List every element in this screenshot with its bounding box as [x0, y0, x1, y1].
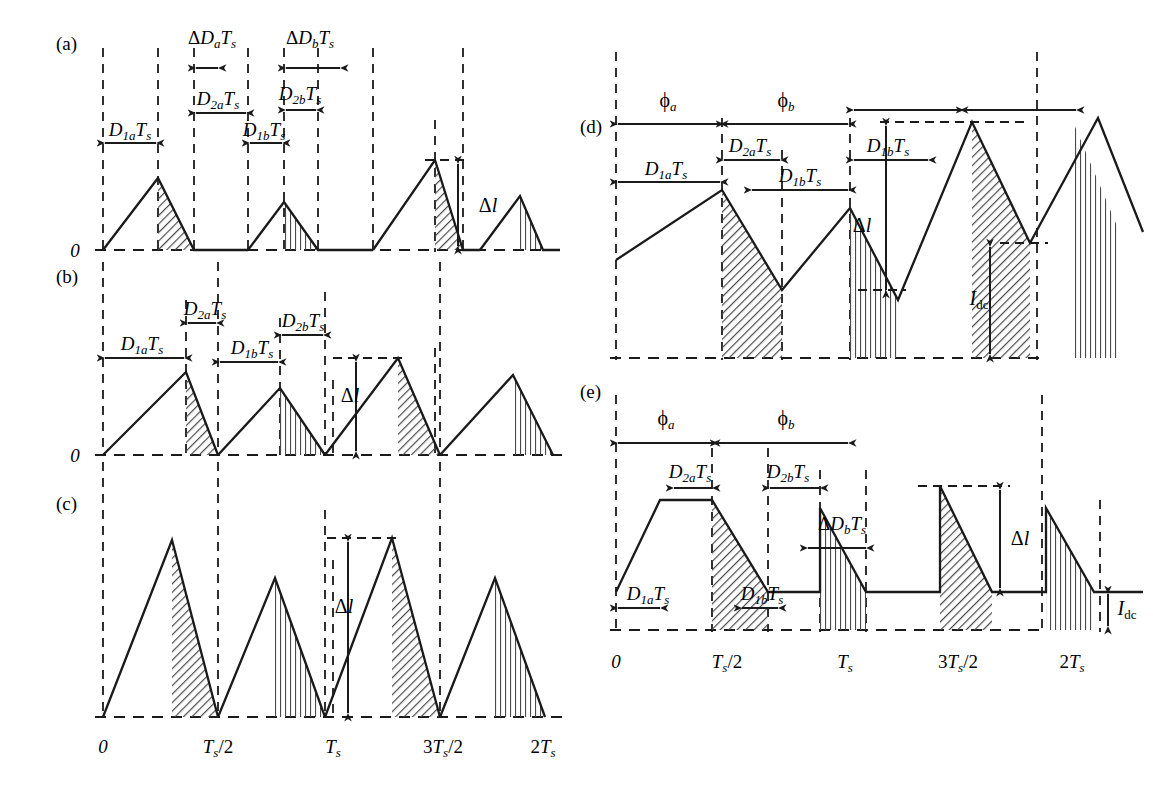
- panel-e-label: (e): [580, 381, 601, 403]
- panel-c-label-deltal: Δl: [335, 595, 354, 617]
- panel-a-zero-label: 0: [70, 240, 80, 261]
- panel-b-zero-label: 0: [70, 445, 80, 466]
- axis-tick-3half-Ts-right: 3Ts/2: [938, 651, 978, 675]
- axis-tick-half-Ts-left: Ts/2: [203, 736, 233, 760]
- panel-a-label-deltaDbTs: ΔDbTs: [286, 27, 334, 51]
- axis-tick-3half-Ts-left: 3Ts/2: [423, 736, 463, 760]
- panel-a-label-deltaDaTs: ΔDaTs: [188, 27, 236, 51]
- panel-a-label: (a): [56, 33, 77, 55]
- waveform-figure: 0 (a) D1aTs D2aTs ΔDaTs: [0, 0, 1153, 797]
- panel-d-label-deltal: Δl: [853, 214, 872, 236]
- panel-c-label: (c): [56, 493, 77, 515]
- axis-tick-0-right: 0: [611, 651, 621, 672]
- axis-tick-0-left: 0: [98, 736, 108, 757]
- panel-b-label: (b): [56, 266, 78, 288]
- panel-a-label-deltal: Δl: [479, 194, 498, 216]
- panel-b-label-deltal: Δl: [341, 384, 360, 406]
- panel-e-label-deltal: Δl: [1011, 527, 1030, 549]
- figure-root: 0 (a) D1aTs D2aTs ΔDaTs: [0, 0, 1153, 797]
- panel-e-label-deltaDbTs: ΔDbTs: [818, 513, 866, 537]
- axis-tick-half-Ts-right: Ts/2: [712, 651, 742, 675]
- panel-d-label: (d): [580, 116, 602, 138]
